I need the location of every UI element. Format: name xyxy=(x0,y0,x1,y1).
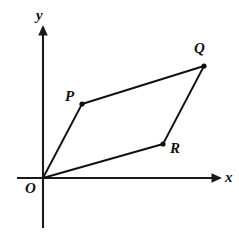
y-axis-label: y xyxy=(36,8,43,23)
x-axis-label: x xyxy=(225,170,233,185)
point-label-r: R xyxy=(170,141,180,156)
point-label-q: Q xyxy=(194,41,205,56)
vertex-dot-r xyxy=(160,141,165,146)
geometry-figure: O P Q R x y xyxy=(0,0,239,242)
parallelogram-path xyxy=(43,66,204,178)
vertex-dot-p xyxy=(79,101,84,106)
vertex-dot-q xyxy=(201,63,206,68)
point-label-p: P xyxy=(65,89,74,104)
x-axis-arrow-icon xyxy=(212,173,223,183)
figure-canvas xyxy=(0,0,239,242)
point-label-o: O xyxy=(25,181,36,196)
y-axis-arrow-icon xyxy=(38,25,48,36)
